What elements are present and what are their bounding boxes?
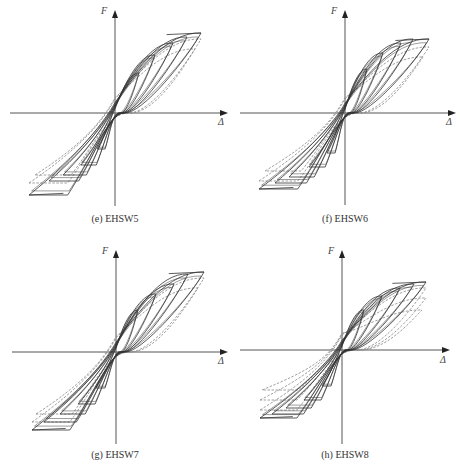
envelope-line: [392, 282, 426, 283]
dashed-loop: [32, 278, 204, 422]
x-axis-label: Δ: [446, 116, 452, 127]
solid-loop: [328, 71, 367, 151]
hysteresis-plot-g: [0, 236, 230, 472]
y-axis-arrow-icon: [339, 250, 345, 258]
chart-panel-f: F Δ (f) EHSW6: [230, 0, 460, 236]
solid-loop: [63, 43, 173, 175]
panel-caption: (e) EHSW5: [0, 213, 230, 224]
chart-panel-e: F Δ (e) EHSW5: [0, 0, 230, 236]
y-axis-label: F: [102, 245, 108, 256]
solid-loop: [35, 276, 202, 426]
solid-loop: [259, 39, 429, 189]
hysteresis-plot-f: [230, 0, 460, 236]
y-axis-label: F: [331, 5, 337, 16]
dashed-loop: [36, 288, 198, 414]
solid-loop: [288, 291, 399, 405]
solid-loop: [65, 46, 172, 171]
dashed-loop: [259, 47, 429, 181]
envelope-line: [169, 272, 204, 274]
y-axis-label: F: [101, 5, 107, 16]
solid-loop: [32, 272, 204, 430]
y-axis-label: F: [328, 245, 334, 256]
hysteresis-plot-h: [230, 236, 460, 472]
solid-loop: [62, 287, 173, 411]
solid-loop: [82, 58, 154, 163]
x-axis-label: Δ: [218, 355, 224, 366]
dashed-loop: [265, 57, 423, 171]
y-axis-arrow-icon: [342, 10, 348, 18]
panel-caption: (f) EHSW6: [230, 213, 460, 224]
hysteresis-plot-e: [0, 0, 230, 236]
dashed-loop: [260, 288, 426, 410]
solid-loop: [272, 284, 414, 414]
envelope-line: [167, 33, 201, 35]
solid-loop: [274, 287, 412, 411]
y-axis-arrow-icon: [113, 250, 119, 258]
solid-loop: [78, 294, 156, 404]
chart-panel-g: F Δ (g) EHSW7: [0, 236, 230, 472]
x-axis-label: Δ: [440, 354, 446, 365]
solid-loop: [262, 43, 427, 186]
solid-loop: [310, 56, 382, 164]
solid-loop: [60, 284, 174, 414]
solid-loop: [286, 288, 400, 408]
chart-panel-h: F Δ (h) EHSW8: [230, 236, 460, 472]
solid-loop: [309, 53, 383, 167]
x-axis-arrow-icon: [442, 347, 450, 353]
panel-caption: (g) EHSW7: [0, 449, 230, 460]
x-axis-label: Δ: [218, 116, 224, 127]
panel-caption: (h) EHSW8: [230, 449, 460, 460]
y-axis-arrow-icon: [112, 10, 118, 18]
